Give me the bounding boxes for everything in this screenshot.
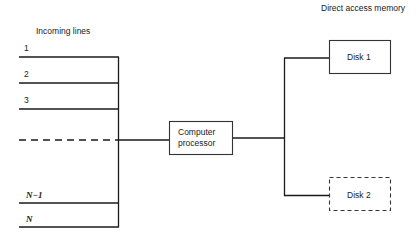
line-label-n: N — [25, 214, 33, 224]
line-label-2: 2 — [24, 69, 29, 79]
direct-access-memory-title: Direct access memory — [321, 3, 406, 13]
disk-2-label: Disk 2 — [347, 190, 371, 200]
line-label-n-minus-1: N−1 — [25, 190, 42, 200]
disk-1-label: Disk 1 — [347, 52, 371, 62]
line-label-1: 1 — [24, 43, 29, 53]
incoming-lines-title: Incoming lines — [36, 26, 90, 36]
diagram: Incoming lines Direct access memory 1 2 … — [0, 0, 419, 234]
processor-label-line1: Computer — [178, 127, 215, 137]
line-label-3: 3 — [24, 95, 29, 105]
processor-label-line2: processor — [178, 138, 215, 148]
